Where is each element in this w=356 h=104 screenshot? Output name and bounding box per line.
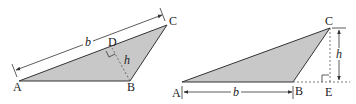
right-height-label: h bbox=[336, 47, 342, 61]
right-vertex-b: B bbox=[295, 84, 303, 98]
right-vertex-e: E bbox=[325, 85, 332, 99]
right-right-angle-marker bbox=[322, 75, 329, 82]
left-vertex-b: B bbox=[127, 80, 135, 94]
left-dim-tick-a bbox=[12, 64, 17, 77]
left-triangle bbox=[19, 25, 167, 81]
left-triangle-figure: b h A B C D bbox=[12, 8, 177, 94]
right-triangle bbox=[182, 28, 330, 82]
right-triangle-figure: h b A B C E bbox=[172, 14, 350, 100]
triangle-area-diagram: b h A B C D h b A B C E bbox=[0, 0, 356, 104]
left-height-label: h bbox=[124, 53, 130, 67]
left-vertex-a: A bbox=[13, 80, 22, 94]
left-vertex-c: C bbox=[169, 14, 177, 28]
left-base-label: b bbox=[85, 35, 91, 49]
right-vertex-c: C bbox=[325, 14, 333, 28]
left-dim-tick-c bbox=[160, 8, 165, 21]
right-vertex-a: A bbox=[172, 86, 181, 100]
right-base-label: b bbox=[233, 85, 239, 99]
left-vertex-d: D bbox=[108, 35, 117, 49]
